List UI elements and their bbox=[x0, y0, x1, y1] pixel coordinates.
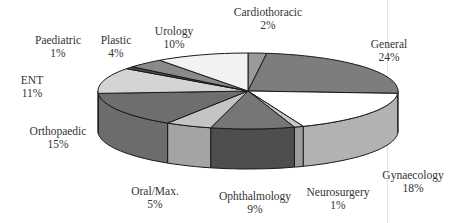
label-cardiothoracic: Cardiothoracic2% bbox=[234, 6, 302, 32]
label-paediatric: Paediatric1% bbox=[35, 34, 81, 60]
label-orthopaedic: Orthopaedic15% bbox=[30, 125, 87, 151]
label-ent: ENT11% bbox=[21, 74, 43, 100]
side-neurosurgery bbox=[294, 126, 303, 167]
label-neurosurgery: Neurosurgery1% bbox=[306, 186, 369, 212]
side-oral-max bbox=[168, 123, 211, 168]
label-oral-max: Oral/Max.5% bbox=[131, 185, 179, 211]
label-general: General24% bbox=[371, 38, 407, 64]
label-plastic: Plastic4% bbox=[101, 34, 132, 60]
label-ophthalmology: Ophthalmology9% bbox=[219, 190, 291, 216]
label-gynaecology: Gynaecology18% bbox=[382, 169, 443, 195]
label-urology: Urology10% bbox=[155, 25, 193, 51]
side-ophthalmology bbox=[211, 127, 295, 169]
